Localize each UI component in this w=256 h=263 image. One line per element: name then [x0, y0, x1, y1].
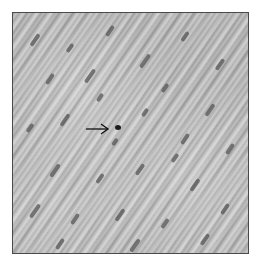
micrograph-figure [12, 12, 249, 254]
tissue-texture [13, 13, 248, 253]
target-nucleus [115, 125, 121, 130]
arrow-right-icon [86, 123, 110, 135]
